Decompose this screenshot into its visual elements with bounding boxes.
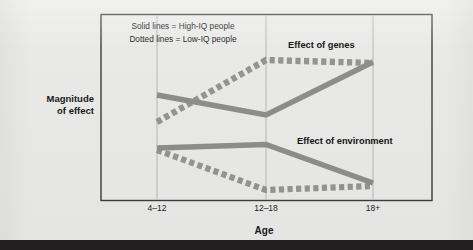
legend-entry-dotted: Dotted lines = Low-IQ people <box>112 33 254 46</box>
x-tick-label-0: 4–12 <box>127 203 187 213</box>
page-footer-bar <box>0 240 473 250</box>
x-tick-label-2: 18+ <box>343 203 403 213</box>
figure-canvas: Solid lines = High-IQ people Dotted line… <box>0 0 473 250</box>
x-tick-label-1: 12–18 <box>236 203 296 213</box>
chart-legend: Solid lines = High-IQ people Dotted line… <box>112 18 254 48</box>
y-axis-label-line-2: of effect <box>18 105 94 117</box>
y-axis-label: Magnitude of effect <box>18 93 94 116</box>
annotation-effect-of-environment: Effect of environment <box>297 136 393 146</box>
legend-entry-solid: Solid lines = High-IQ people <box>112 20 254 33</box>
y-axis-label-line-1: Magnitude <box>18 93 94 105</box>
x-axis-title: Age <box>224 225 304 236</box>
annotation-effect-of-genes: Effect of genes <box>288 40 355 50</box>
